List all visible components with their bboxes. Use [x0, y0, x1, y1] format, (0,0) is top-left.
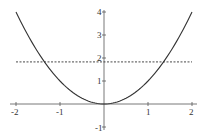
x-tick-label: 2: [189, 107, 194, 117]
y-tick-label: -1: [95, 123, 103, 133]
x-tick-label: -1: [56, 107, 64, 117]
x-tick-label: 1: [146, 107, 151, 117]
x-tick-label: -2: [11, 107, 19, 117]
y-tick-label: 4: [97, 7, 102, 17]
y-tick-label: 1: [97, 76, 102, 86]
parabola-chart: -2 -1 1 2 4 3 2 1 -1: [0, 0, 209, 137]
y-tick-label: 3: [97, 30, 102, 40]
